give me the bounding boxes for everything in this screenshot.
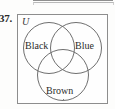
venn-label-brown: Brown <box>46 86 73 96</box>
venn-label-black: Black <box>25 41 48 51</box>
universal-set-label: U <box>22 16 29 27</box>
universal-set-box: U Black Blue Brown <box>17 14 108 104</box>
previous-figure-top-line <box>33 0 113 1</box>
figure-canvas: 37. U Black Blue Brown <box>0 0 115 109</box>
exercise-number: 37. <box>0 13 12 24</box>
previous-figure-bottom-edge <box>33 2 114 5</box>
scan-artifact-mark <box>63 99 64 101</box>
venn-label-blue: Blue <box>75 41 94 51</box>
